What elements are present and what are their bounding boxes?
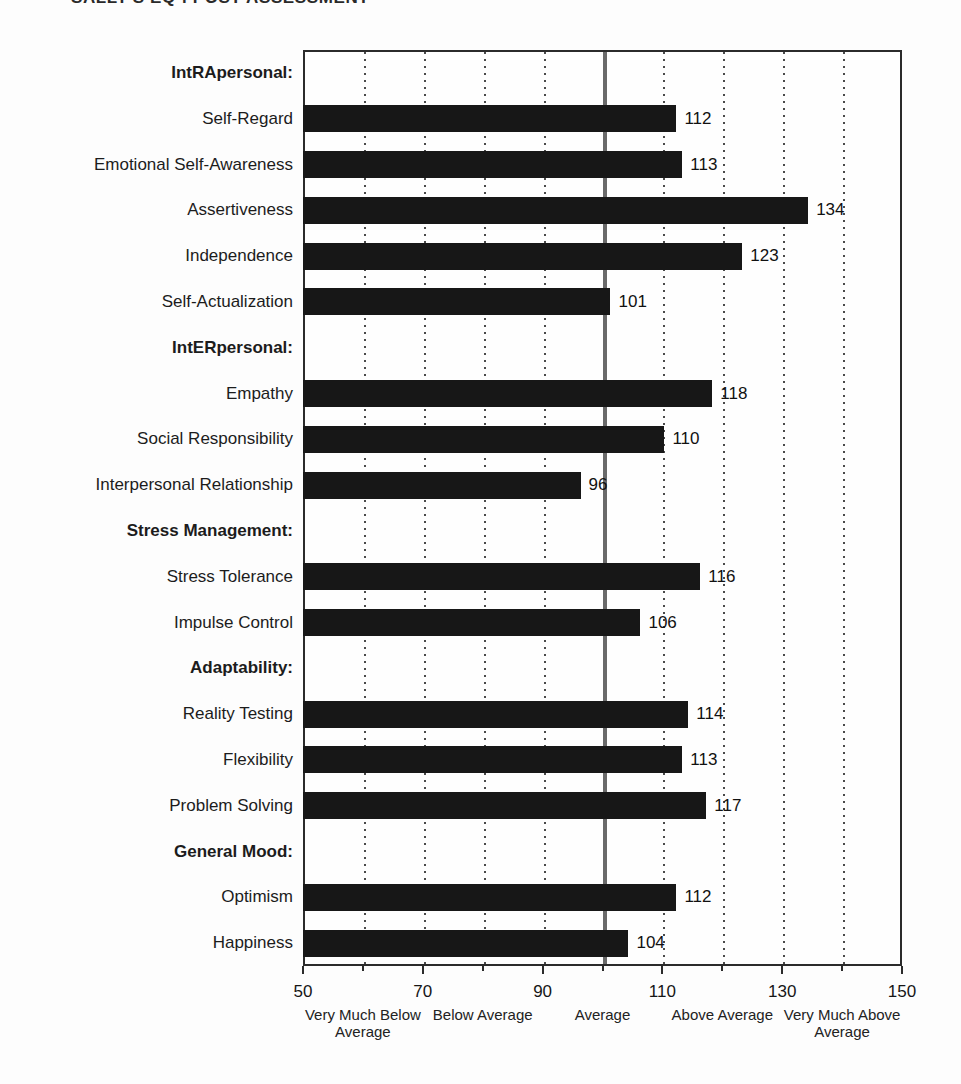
score-bar <box>303 884 676 911</box>
gridline-120 <box>723 52 725 964</box>
reference-line-100 <box>603 52 607 964</box>
gridline-130 <box>783 52 785 964</box>
bar-label-social-responsibility: Social Responsibility <box>0 429 299 449</box>
score-value: 134 <box>816 200 844 220</box>
tick-label-90: 90 <box>515 982 571 1002</box>
eqi-bar-chart: 1121131341231011181109611610611411311711… <box>0 0 961 1084</box>
minor-tick-60 <box>362 966 364 971</box>
score-bar <box>303 563 700 590</box>
bar-label-stress-tolerance: Stress Tolerance <box>0 567 299 587</box>
section-header-0: IntRApersonal: <box>0 63 299 83</box>
score-value: 117 <box>714 796 741 816</box>
score-bar <box>303 472 581 499</box>
score-value: 112 <box>684 109 711 129</box>
tick-label-50: 50 <box>275 982 331 1002</box>
score-bar <box>303 105 676 132</box>
gridline-70 <box>424 52 426 964</box>
tick-label-110: 110 <box>634 982 690 1002</box>
section-header-2: Stress Management: <box>0 521 299 541</box>
score-value: 104 <box>636 933 664 953</box>
tick-label-70: 70 <box>395 982 451 1002</box>
major-tick-150 <box>901 966 903 974</box>
score-bar <box>303 930 628 957</box>
gridline-60 <box>364 52 366 964</box>
score-value: 113 <box>690 155 717 175</box>
bar-label-self-actualization: Self-Actualization <box>0 292 299 312</box>
major-tick-110 <box>661 966 663 974</box>
bar-label-empathy: Empathy <box>0 384 299 404</box>
score-bar <box>303 288 610 315</box>
minor-tick-120 <box>721 966 723 971</box>
score-value: 114 <box>696 704 723 724</box>
score-value: 106 <box>648 613 676 633</box>
minor-tick-100 <box>602 966 604 971</box>
major-tick-130 <box>781 966 783 974</box>
score-value: 112 <box>684 887 711 907</box>
bar-label-emotional-self-awareness: Emotional Self-Awareness <box>0 155 299 175</box>
gridline-140 <box>843 52 845 964</box>
gridline-110 <box>663 52 665 964</box>
section-header-1: IntERpersonal: <box>0 338 299 358</box>
score-bar <box>303 609 640 636</box>
score-bar <box>303 151 682 178</box>
bar-label-interpersonal-relationship: Interpersonal Relationship <box>0 475 299 495</box>
scale-descriptor-140: Very Much Above Average <box>771 1006 913 1040</box>
bar-label-reality-testing: Reality Testing <box>0 704 299 724</box>
score-value: 96 <box>589 475 608 495</box>
score-bar <box>303 701 688 728</box>
score-bar <box>303 380 712 407</box>
bar-label-problem-solving: Problem Solving <box>0 796 299 816</box>
gridline-80 <box>484 52 486 964</box>
tick-label-130: 130 <box>754 982 810 1002</box>
major-tick-50 <box>302 966 304 974</box>
bar-label-happiness: Happiness <box>0 933 299 953</box>
score-value: 116 <box>708 567 735 587</box>
score-value: 101 <box>618 292 646 312</box>
major-tick-70 <box>422 966 424 974</box>
score-bar <box>303 792 706 819</box>
score-value: 118 <box>720 384 747 404</box>
major-tick-90 <box>542 966 544 974</box>
score-value: 110 <box>672 429 699 449</box>
score-value: 113 <box>690 750 717 770</box>
score-value: 123 <box>750 246 778 266</box>
bar-label-self-regard: Self-Regard <box>0 109 299 129</box>
bar-label-independence: Independence <box>0 246 299 266</box>
gridline-90 <box>544 52 546 964</box>
plot-area: 1121131341231011181109611610611411311711… <box>303 50 902 966</box>
bar-label-impulse-control: Impulse Control <box>0 613 299 633</box>
bar-label-assertiveness: Assertiveness <box>0 200 299 220</box>
minor-tick-80 <box>482 966 484 971</box>
tick-label-150: 150 <box>874 982 930 1002</box>
scanned-page: SALLY'S EQ-i POST ASSESSMENT 11211313412… <box>0 0 961 1084</box>
bar-label-optimism: Optimism <box>0 887 299 907</box>
section-header-4: General Mood: <box>0 842 299 862</box>
score-bar <box>303 746 682 773</box>
score-bar <box>303 243 742 270</box>
score-bar <box>303 197 808 224</box>
bar-label-flexibility: Flexibility <box>0 750 299 770</box>
section-header-3: Adaptability: <box>0 658 299 678</box>
minor-tick-140 <box>841 966 843 971</box>
score-bar <box>303 426 664 453</box>
